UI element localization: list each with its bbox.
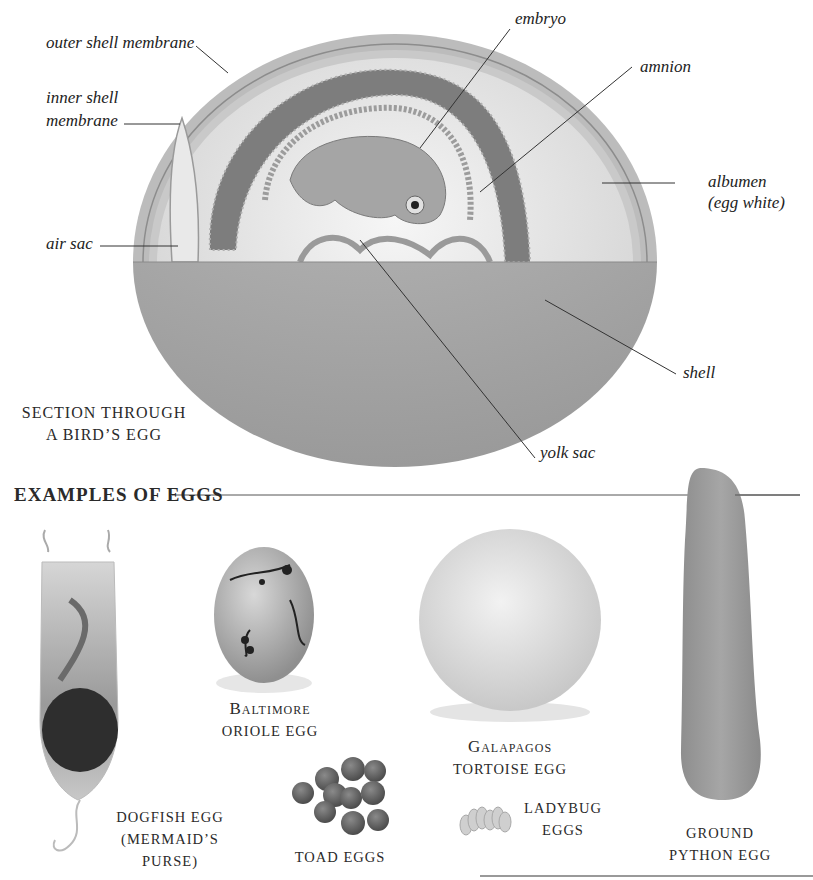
caption-line: ORIOLE EGG (200, 720, 340, 742)
diagram-title-line1: SECTION THROUGH (14, 402, 194, 424)
galapagos-tortoise-egg-image (419, 529, 601, 722)
label-yolk-sac: yolk sac (540, 442, 595, 464)
caption-ladybug-eggs: LADYBUG EGGS (518, 797, 608, 841)
label-albumen-line2: (egg white) (708, 192, 785, 214)
diagram-title-line2: A BIRD’S EGG (14, 424, 194, 446)
caption-line: EGGS (518, 819, 608, 841)
examples-heading: EXAMPLES OF EGGS (14, 484, 224, 506)
caption-line: GROUND (660, 822, 780, 844)
label-outer-shell-membrane: outer shell membrane (46, 32, 194, 54)
caption-galapagos-tortoise-egg: Galapagos TORTOISE EGG (440, 736, 580, 780)
caption-line: PYTHON EGG (660, 844, 780, 866)
caption-ground-python-egg: GROUND PYTHON EGG (660, 822, 780, 866)
caption-toad-eggs: TOAD EGGS (285, 846, 395, 868)
caption-line: TORTOISE EGG (440, 758, 580, 780)
label-air-sac: air sac (46, 233, 93, 255)
ground-python-egg-image (681, 468, 761, 800)
label-inner-shell-membrane-line1: inner shell (46, 87, 118, 109)
baltimore-oriole-egg-image (214, 547, 314, 693)
caption-line: Galapagos (440, 736, 580, 758)
dogfish-egg-image (40, 530, 118, 850)
label-amnion: amnion (640, 56, 691, 78)
label-albumen-line1: albumen (708, 171, 767, 193)
caption-line: DOGFISH EGG (115, 806, 225, 828)
label-embryo: embryo (515, 8, 566, 30)
caption-line: Baltimore (200, 698, 340, 720)
toad-eggs-image (292, 757, 389, 835)
caption-line: TOAD EGGS (285, 846, 395, 868)
ladybug-eggs-image (460, 807, 511, 835)
label-shell: shell (683, 362, 715, 384)
caption-dogfish-egg: DOGFISH EGG (MERMAID’S PURSE) (115, 806, 225, 872)
caption-line: (MERMAID’S (115, 828, 225, 850)
caption-line: PURSE) (115, 850, 225, 872)
caption-line: LADYBUG (518, 797, 608, 819)
label-inner-shell-membrane-line2: membrane (46, 110, 118, 132)
diagram-title: SECTION THROUGH A BIRD’S EGG (14, 402, 194, 446)
caption-baltimore-oriole-egg: Baltimore ORIOLE EGG (200, 698, 340, 742)
